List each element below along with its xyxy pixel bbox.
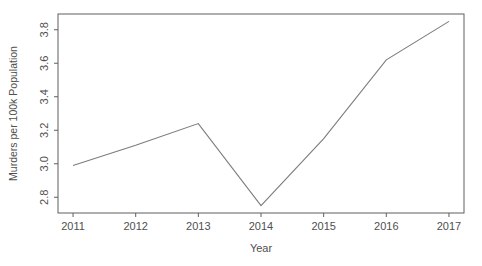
x-tick-label: 2014 [249,220,273,232]
x-tick-label: 2011 [61,220,85,232]
y-tick-label: 3.2 [38,123,50,138]
y-tick-label: 3.6 [38,56,50,71]
y-tick-label: 3.0 [38,156,50,171]
y-axis-title: Murders per 100k Population [7,46,19,181]
x-tick-label: 2015 [311,220,335,232]
y-tick-label: 3.4 [38,89,50,104]
x-axis-title: Year [250,242,273,254]
line-chart-figure: 20112012201320142015201620172.83.03.23.4… [0,0,482,266]
y-tick-label: 3.8 [38,22,50,37]
x-tick-label: 2013 [186,220,210,232]
data-line [73,21,449,205]
x-tick-label: 2012 [123,220,147,232]
plot-border [58,14,464,213]
chart-canvas: 20112012201320142015201620172.83.03.23.4… [0,0,482,266]
y-tick-label: 2.8 [38,190,50,205]
x-tick-label: 2016 [374,220,398,232]
x-tick-label: 2017 [437,220,461,232]
